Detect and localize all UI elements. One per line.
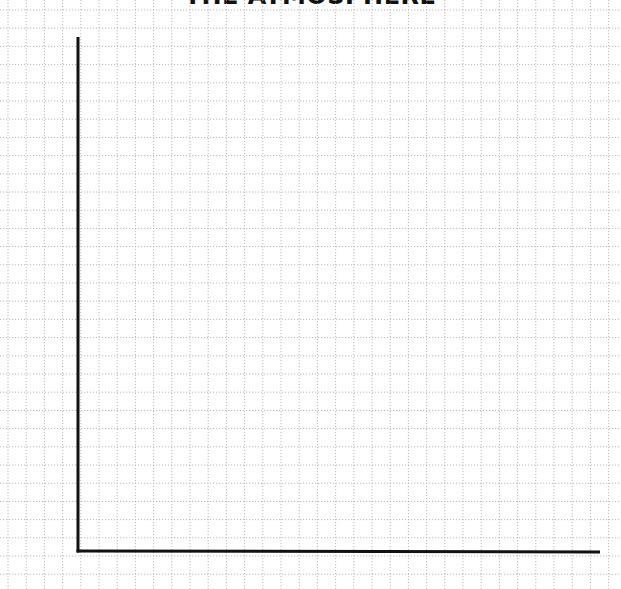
- graph-grid: [0, 0, 621, 589]
- x-axis: [77, 551, 601, 552]
- grid-lines: [0, 0, 621, 589]
